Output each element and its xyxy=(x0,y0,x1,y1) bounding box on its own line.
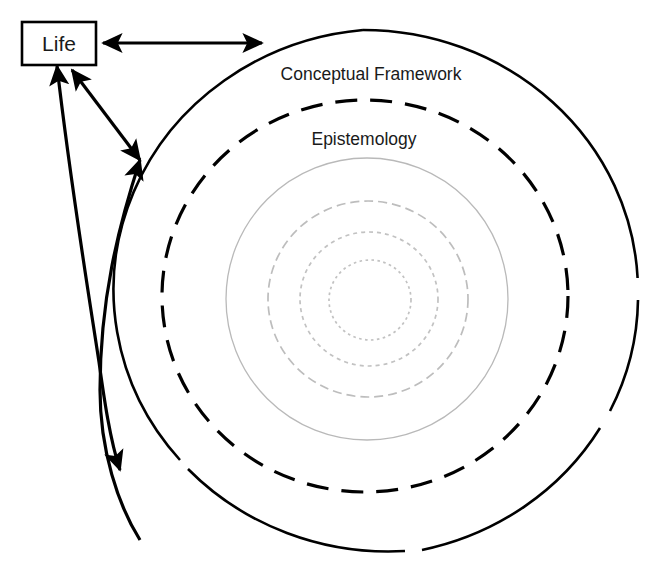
inner-ring-5 xyxy=(300,232,438,366)
ring-epistemology-outline xyxy=(162,100,568,492)
ring-arc-bottom-left xyxy=(188,469,405,551)
epistemology-ring xyxy=(162,100,568,492)
inner-ring-6 xyxy=(329,260,411,340)
life-node[interactable]: Life xyxy=(22,22,96,65)
conceptual-framework-label: Conceptual Framework xyxy=(281,64,462,84)
epistemology-label: Epistemology xyxy=(311,129,416,149)
life-box-label: Life xyxy=(42,32,76,55)
life-to-framework-diagonal xyxy=(72,70,140,160)
concentric-rings-diagram: Life Conceptual Framework Epistemology xyxy=(0,0,651,572)
ring-arc-right xyxy=(610,300,638,411)
conceptual-framework-ring xyxy=(114,30,638,551)
ring-arc-left-top xyxy=(114,30,363,460)
diagram-canvas: Life Conceptual Framework Epistemology xyxy=(0,0,651,572)
ring-arc-bottom-right xyxy=(422,428,600,550)
